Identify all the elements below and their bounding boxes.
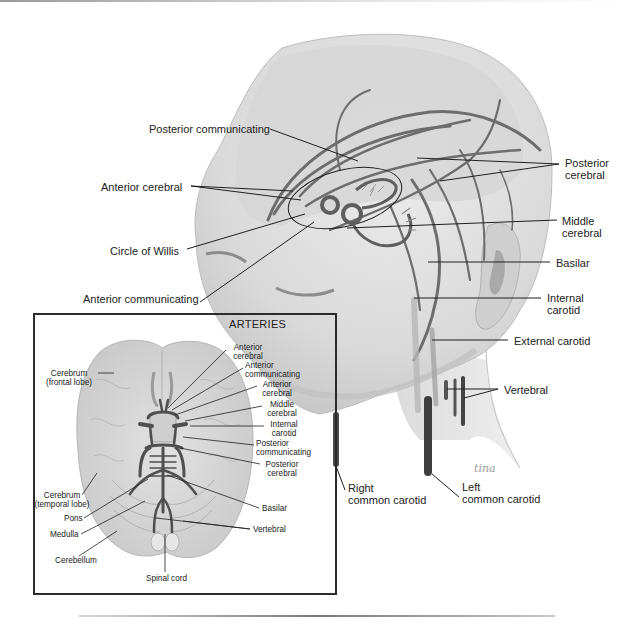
label-internal-carotid: Internalcarotid (547, 292, 607, 316)
label-line: cerebral (562, 227, 622, 239)
label-posterior-communicating: Posterior communicating (120, 123, 270, 135)
label-line: Pons (64, 515, 88, 524)
label-middle-cerebral: Middlecerebral (562, 215, 622, 239)
leader-line-anterior-cerebral (191, 186, 301, 200)
label-inset-vertebral: Vertebral (253, 526, 297, 535)
label-line: Left (462, 481, 562, 493)
leader-line-anterior-communicating (200, 222, 314, 302)
leader-line-inset-vertebral (183, 521, 250, 529)
artist-signature: tina (474, 462, 496, 475)
leader-line-right-common-carotid (336, 466, 345, 490)
inset-title: ARTERIES (229, 318, 286, 330)
label-line: cerebral (262, 410, 302, 419)
bottom-rule (79, 615, 555, 617)
label-line: (frontal lobe) (40, 379, 98, 388)
label-line: Cerebellum (55, 557, 103, 566)
label-line: Middle (562, 215, 622, 227)
label-right-common-carotid: Rightcommon carotid (348, 482, 448, 506)
label-anterior-cerebral: Anterior cerebral (101, 181, 201, 193)
leader-line-inset-anterior-cerebral-1 (168, 350, 226, 408)
label-inset-middle-cerebral: Middlecerebral (262, 401, 302, 418)
label-circle-of-willis: Circle of Willis (110, 245, 195, 257)
leader-line-inset-basilar (167, 475, 259, 508)
label-inset-anterior-communicating: Anteriorcommunicating (245, 362, 309, 379)
label-inset-basilar: Basilar (262, 505, 302, 514)
label-line: cerebral (257, 390, 297, 399)
label-line: cerebral (224, 353, 272, 362)
label-inset-posterior-communicating: Posteriorcommunicating (256, 440, 320, 457)
label-line: communicating (245, 371, 309, 380)
label-line: Vertebral (253, 526, 297, 535)
label-line: Spinal cord (146, 575, 198, 584)
label-line: cerebral (565, 169, 625, 181)
leader-line-inset-posterior-communicating (183, 437, 254, 445)
label-line: Circle of Willis (110, 245, 195, 257)
label-inset-anterior-cerebral-1: Anteriorcerebral (224, 344, 272, 361)
leader-lines (0, 0, 629, 628)
leader-line-inset-middle-cerebral (185, 406, 262, 421)
label-inset-spinal-cord: Spinal cord (146, 575, 198, 584)
label-line: Basilar (262, 505, 302, 514)
label-inset-medulla: Medulla (50, 531, 84, 540)
leader-line-circle-of-willis (187, 214, 305, 249)
label-line: communicating (256, 449, 320, 458)
label-inset-cerebellum: Cerebellum (55, 557, 103, 566)
label-line: Basilar (556, 257, 616, 269)
label-anterior-communicating: Anterior communicating (83, 293, 223, 305)
leader-line-vertebral (464, 389, 498, 398)
label-vertebral: Vertebral (504, 384, 574, 396)
label-line: carotid (266, 430, 302, 439)
leader-line-inset-posterior-cerebral (180, 448, 260, 464)
leader-line-inset-pons (84, 479, 148, 518)
label-inset-cerebrum-temporal: Cerebrum(temporal lobe) (33, 492, 91, 509)
label-line: common carotid (462, 493, 562, 505)
leader-line-middle-cerebral (347, 220, 557, 228)
label-line: External carotid (514, 335, 624, 347)
label-inset-cerebrum-frontal: Cerebrum(frontal lobe) (40, 370, 98, 387)
leader-line-posterior-communicating (270, 129, 358, 161)
label-line: Posterior communicating (120, 123, 270, 135)
label-line: cerebral (260, 470, 304, 479)
label-line: carotid (547, 304, 607, 316)
label-line: Right (348, 482, 448, 494)
leader-line-posterior-cerebral (440, 164, 559, 181)
label-inset-posterior-cerebral: Posteriorcerebral (260, 461, 304, 478)
leader-line-inset-cerebellum (79, 531, 117, 556)
label-left-common-carotid: Leftcommon carotid (462, 481, 562, 505)
label-line: Posterior (565, 157, 625, 169)
label-inset-pons: Pons (64, 515, 88, 524)
label-inset-internal-carotid: Internalcarotid (266, 421, 302, 438)
leader-line-posterior-cerebral (417, 158, 559, 164)
label-line: Anterior communicating (83, 293, 223, 305)
label-posterior-cerebral: Posteriorcerebral (565, 157, 625, 181)
label-line: Anterior cerebral (101, 181, 201, 193)
label-line: (temporal lobe) (33, 501, 91, 510)
label-inset-anterior-cerebral-2: Anteriorcerebral (257, 381, 297, 398)
label-line: Medulla (50, 531, 84, 540)
label-line: Internal (547, 292, 607, 304)
leader-line-anterior-cerebral (191, 186, 293, 191)
label-external-carotid: External carotid (514, 335, 624, 347)
label-line: Vertebral (504, 384, 574, 396)
label-basilar: Basilar (556, 257, 616, 269)
label-line: common carotid (348, 494, 448, 506)
